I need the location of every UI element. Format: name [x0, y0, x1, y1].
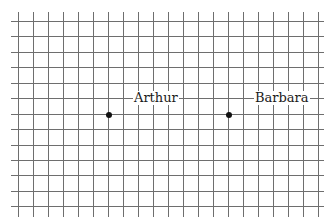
grid-diagram: Arthur Barbara [0, 0, 333, 222]
arthur-point-marker [106, 112, 112, 118]
arthur-label: Arthur [133, 91, 179, 105]
grid-lines [0, 0, 333, 222]
barbara-point-marker [226, 112, 232, 118]
barbara-label: Barbara [254, 91, 310, 105]
